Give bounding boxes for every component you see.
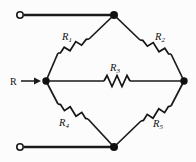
r4-subscript: 4 <box>65 122 69 130</box>
bottom-left-terminal-circle <box>17 144 23 150</box>
resistor-r4-label: R4 <box>58 117 69 130</box>
branch-r5-lower-segment <box>114 121 141 147</box>
node-top-junction <box>110 11 118 19</box>
branch-r5-upper-segment <box>171 81 184 106</box>
resistor-r5-label: R5 <box>152 118 163 131</box>
branch-r4-upper-segment <box>46 81 58 104</box>
resistor-r2-label: R2 <box>154 31 165 44</box>
source-label: R <box>10 76 17 87</box>
r5-subscript: 5 <box>159 123 163 131</box>
circuit-schematic-svg: R R1 R2 R3 R4 R5 <box>0 0 196 162</box>
svg-text:R1: R1 <box>61 31 72 44</box>
resistor-r1-label: R1 <box>61 31 72 44</box>
svg-text:R2: R2 <box>154 31 165 44</box>
top-left-terminal-circle <box>17 12 23 18</box>
node-bottom-junction <box>110 143 118 151</box>
node-left-junction <box>42 77 49 84</box>
branch-r1-upper-segment <box>89 15 114 39</box>
branch-r2-upper-segment <box>114 15 140 40</box>
r1-subscript: 1 <box>68 36 72 44</box>
branch-r1-lower-segment <box>46 53 58 81</box>
resistor-r3-label: R3 <box>109 62 120 75</box>
branch-r2-lower-segment <box>171 54 184 81</box>
resistor-r2-zigzag <box>140 40 171 54</box>
right-arrow-icon <box>21 78 41 85</box>
r2-subscript: 2 <box>161 36 165 44</box>
svg-text:R4: R4 <box>58 117 69 130</box>
resistor-r3-zigzag <box>104 76 130 87</box>
svg-text:R5: R5 <box>152 118 163 131</box>
svg-text:R3: R3 <box>109 62 120 75</box>
branch-r4-lower-segment <box>88 119 114 147</box>
circuit-diagram: R R1 R2 R3 R4 R5 <box>0 0 196 162</box>
r3-subscript: 3 <box>115 67 120 75</box>
node-right-junction <box>180 77 187 84</box>
